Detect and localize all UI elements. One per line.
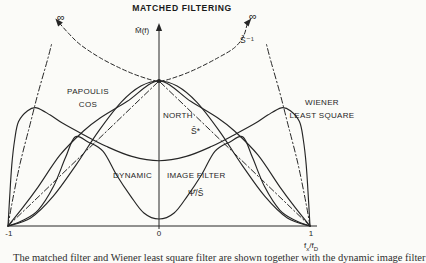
papoulis-cos-label: PAPOULIS COS [67,86,109,111]
s-inverse-curve [59,23,247,81]
north-label: NORTH [163,111,193,120]
image-filter-label: IMAGE FILTER [167,171,226,180]
infinity-symbol-right: ∞ [249,11,257,21]
papoulis-label-line2: COS [67,99,109,112]
wiener-least-square-label: WIENER LEAST SQUARE [290,97,355,122]
y-axis-arrow [156,23,162,31]
psi-over-s-label: Ψ̂/Ŝ [188,188,204,198]
s-star-label: Ŝ* [191,126,200,136]
convergence-point [157,79,161,83]
x-tick-minus1: -1 [5,229,13,238]
s-inverse-label: Ŝ⁻¹ [240,35,254,45]
wiener-label-line2: LEAST SQUARE [290,110,355,123]
caption-fragment: The matched filter and Wiener least squa… [13,252,426,263]
axes-lines [8,30,317,229]
dynamic-label: DYNAMIC [113,171,152,180]
infinity-symbol-left: ∞ [57,12,65,22]
x-axis-unit-label: fx/fD [304,241,318,252]
wiener-label-line1: WIENER [290,97,355,110]
x-tick-one: 1 [309,229,314,238]
fd-sub: D [314,246,318,252]
y-axis-label: M̂(f) [135,26,149,35]
papoulis-label-line1: PAPOULIS [67,86,109,99]
figure-title: MATCHED FILTERING [132,3,232,13]
x-tick-zero: 0 [157,229,162,238]
